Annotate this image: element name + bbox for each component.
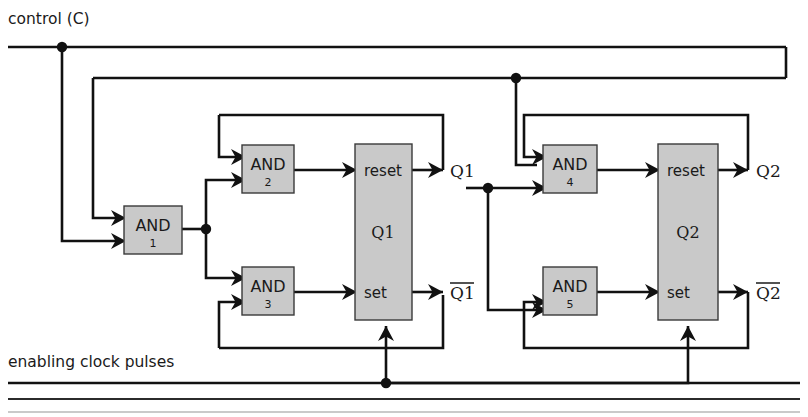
output-label-q1: Q1: [450, 161, 475, 181]
output-label-q2: Q2: [756, 161, 781, 181]
junction-control-right: [511, 73, 521, 83]
output-label-q2bar-group: Q2: [756, 283, 781, 303]
output-label-q2bar: Q2: [756, 283, 781, 303]
control-signal-label-group: control (C): [8, 10, 90, 28]
logic-circuit-diagram: AND 1 AND 2 AND 3 AND 4 AND 5 reset Q1 s…: [0, 0, 808, 417]
gate-and3[interactable]: AND 3: [242, 267, 294, 315]
gate-and4-number: 4: [567, 176, 574, 189]
output-label-q1bar-group: Q1: [450, 283, 475, 303]
clock-signal-label: enabling clock pulses: [8, 353, 174, 371]
gate-and2[interactable]: AND 2: [242, 145, 294, 193]
junction-clock-tap: [381, 378, 391, 388]
gate-and1-number: 1: [150, 237, 157, 250]
flipflop-q2-name: Q2: [676, 223, 699, 242]
junction-and1-output: [201, 224, 211, 234]
gate-and3-label: AND: [250, 277, 285, 296]
control-signal-label: control (C): [8, 10, 90, 28]
flipflop-q2-reset-label: reset: [667, 162, 705, 180]
gate-and4-label: AND: [552, 155, 587, 174]
flipflop-q1-set-label: set: [364, 284, 387, 302]
output-label-q1bar: Q1: [450, 283, 475, 303]
gate-and5[interactable]: AND 5: [543, 267, 597, 315]
gate-and1[interactable]: AND 1: [124, 206, 182, 254]
flipflop-q1-name: Q1: [371, 223, 394, 242]
gate-and5-label: AND: [552, 277, 587, 296]
gate-and3-number: 3: [265, 298, 272, 311]
gate-and5-number: 5: [567, 298, 574, 311]
flipflop-q2-set-label: set: [667, 284, 690, 302]
flipflop-q1-reset-label: reset: [364, 162, 402, 180]
circuit-svg: AND 1 AND 2 AND 3 AND 4 AND 5 reset Q1 s…: [0, 0, 808, 417]
gate-and2-number: 2: [265, 176, 272, 189]
gate-and2-label: AND: [250, 155, 285, 174]
flipflop-q2[interactable]: reset Q2 set: [658, 144, 718, 320]
junction-q1-fanout: [483, 183, 493, 193]
junction-control-tap: [57, 42, 67, 52]
flipflop-q1[interactable]: reset Q1 set: [355, 144, 412, 320]
gate-and4[interactable]: AND 4: [543, 145, 597, 193]
gate-and1-label: AND: [135, 216, 170, 235]
